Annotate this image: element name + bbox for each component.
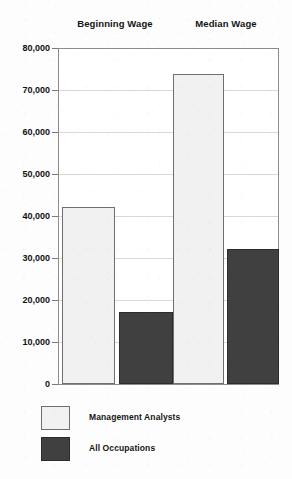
gridline-70000 — [59, 90, 278, 91]
legend-item-management-analysts: Management Analysts — [41, 404, 261, 435]
y-axis-label-20000: 20,000 — [0, 295, 50, 305]
legend-label-management-analysts: Management Analysts — [89, 412, 180, 422]
legend-label-all-occupations: All Occupations — [89, 443, 155, 453]
y-axis-label-60000: 60,000 — [0, 127, 50, 137]
gridline-50000 — [59, 174, 278, 175]
plot-area — [58, 48, 279, 385]
y-axis-label-40000: 40,000 — [0, 211, 50, 221]
bar-median-wage-all-occupations — [227, 249, 279, 384]
bar-chart-figure: Beginning Wage Median Wage 80,000 70,000… — [0, 0, 292, 479]
group-header-beginning-wage: Beginning Wage — [60, 18, 170, 29]
group-header-median-wage: Median Wage — [172, 18, 280, 29]
bar-median-wage-management-analysts — [173, 74, 224, 384]
legend-item-all-occupations: All Occupations — [41, 435, 261, 466]
y-axis-label-50000: 50,000 — [0, 169, 50, 179]
y-axis-label-10000: 10,000 — [0, 337, 50, 347]
legend-swatch-all-occupations — [41, 437, 70, 461]
y-axis-label-80000: 80,000 — [0, 43, 50, 53]
bar-beginning-wage-all-occupations — [119, 312, 173, 384]
gridline-60000 — [59, 132, 278, 133]
y-axis-label-0: 0 — [0, 379, 50, 389]
y-axis-label-30000: 30,000 — [0, 253, 50, 263]
bar-beginning-wage-management-analysts — [62, 207, 115, 384]
chart-legend: Management Analysts All Occupations — [41, 404, 261, 466]
legend-swatch-management-analysts — [41, 406, 70, 430]
y-axis-label-70000: 70,000 — [0, 85, 50, 95]
